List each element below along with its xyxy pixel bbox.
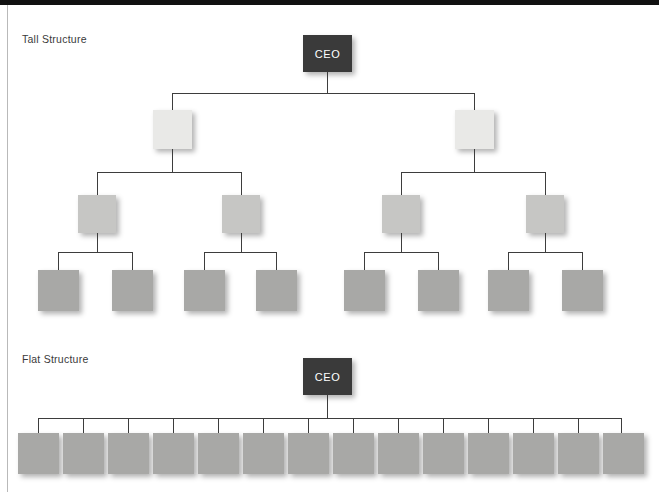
tall-connector-l2-1-stem (172, 149, 173, 172)
tall-connector-level4-drop-6 (438, 252, 439, 270)
flat-connector-ceo-stem (327, 395, 328, 418)
tall-connector-level2-bus (172, 93, 475, 94)
tall-node-level3-4[interactable] (526, 195, 564, 233)
tall-connector-level3-drop-2 (241, 172, 242, 195)
tall-connector-level4-drop-2 (132, 252, 133, 270)
tall-node-level4-7[interactable] (488, 270, 529, 311)
flat-node-14[interactable] (603, 433, 644, 474)
flat-connector-drop-6 (263, 418, 264, 433)
tall-node-level4-2[interactable] (112, 270, 153, 311)
flat-node-2[interactable] (63, 433, 104, 474)
flat-node-12[interactable] (513, 433, 554, 474)
flat-node-4[interactable] (153, 433, 194, 474)
tall-node-level3-3[interactable] (382, 195, 420, 233)
flat-node-8[interactable] (333, 433, 374, 474)
tall-connector-level4-drop-3 (204, 252, 205, 270)
tall-connector-level4-bus-1 (58, 252, 133, 253)
flat-connector-drop-13 (578, 418, 579, 433)
flat-connector-drop-2 (83, 418, 84, 433)
org-structure-figure: Tall Structure CEO (0, 0, 659, 492)
tall-connector-level3-drop-3 (401, 172, 402, 195)
tall-node-level3-1[interactable] (78, 195, 116, 233)
tall-ceo-label: CEO (315, 48, 341, 60)
tall-node-level4-3[interactable] (184, 270, 225, 311)
tall-connector-level4-drop-7 (508, 252, 509, 270)
tall-node-level4-4[interactable] (256, 270, 297, 311)
flat-ceo-label: CEO (315, 371, 341, 383)
flat-connector-drop-11 (488, 418, 489, 433)
flat-node-1[interactable] (18, 433, 59, 474)
tall-connector-level3-drop-4 (545, 172, 546, 195)
tall-connector-level3-bus-right (401, 172, 545, 173)
flat-node-13[interactable] (558, 433, 599, 474)
tall-connector-level4-drop-4 (276, 252, 277, 270)
section-label-flat-structure: Flat Structure (22, 353, 89, 365)
flat-node-3[interactable] (108, 433, 149, 474)
section-label-tall-structure: Tall Structure (22, 33, 87, 45)
flat-connector-drop-3 (128, 418, 129, 433)
tall-connector-level4-drop-5 (364, 252, 365, 270)
flat-node-11[interactable] (468, 433, 509, 474)
tall-connector-level4-bus-4 (508, 252, 582, 253)
tall-node-ceo[interactable]: CEO (303, 35, 352, 72)
tall-node-level2-2[interactable] (455, 110, 494, 149)
tall-connector-level4-drop-8 (582, 252, 583, 270)
flat-connector-drop-7 (308, 418, 309, 433)
flat-connector-drop-14 (621, 418, 622, 433)
flat-connector-drop-1 (38, 418, 39, 433)
tall-connector-l3-3-stem (401, 233, 402, 252)
flat-node-5[interactable] (198, 433, 239, 474)
tall-connector-level4-bus-3 (364, 252, 438, 253)
flat-node-10[interactable] (423, 433, 464, 474)
tall-connector-level2-drop-2 (474, 93, 475, 110)
flat-connector-drop-12 (533, 418, 534, 433)
tall-connector-l3-2-stem (241, 233, 242, 252)
tall-connector-level3-drop-1 (97, 172, 98, 195)
tall-connector-level2-drop-1 (172, 93, 173, 110)
tall-node-level2-1[interactable] (153, 110, 192, 149)
flat-connector-drop-5 (218, 418, 219, 433)
tall-node-level4-1[interactable] (38, 270, 79, 311)
tall-connector-l3-1-stem (97, 233, 98, 252)
tall-node-level3-2[interactable] (222, 195, 260, 233)
page-left-margin-rule (7, 5, 8, 492)
tall-connector-ceo-stem (327, 72, 328, 93)
tall-node-level4-5[interactable] (344, 270, 385, 311)
flat-node-ceo[interactable]: CEO (303, 358, 352, 395)
flat-node-6[interactable] (243, 433, 284, 474)
flat-connector-drop-4 (173, 418, 174, 433)
flat-connector-drop-9 (398, 418, 399, 433)
page-top-rule (0, 0, 659, 5)
flat-connector-drop-8 (353, 418, 354, 433)
tall-connector-l2-2-stem (474, 149, 475, 172)
tall-connector-level3-bus-left (97, 172, 241, 173)
tall-connector-level4-drop-1 (58, 252, 59, 270)
tall-node-level4-6[interactable] (418, 270, 459, 311)
flat-node-9[interactable] (378, 433, 419, 474)
tall-connector-level4-bus-2 (204, 252, 277, 253)
tall-node-level4-8[interactable] (562, 270, 603, 311)
flat-connector-drop-10 (443, 418, 444, 433)
tall-connector-l3-4-stem (545, 233, 546, 252)
flat-node-7[interactable] (288, 433, 329, 474)
